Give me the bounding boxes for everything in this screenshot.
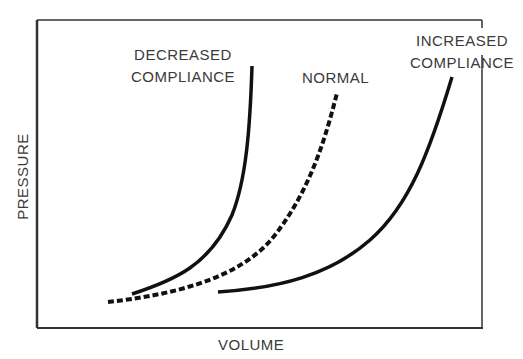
curve-increased-compliance bbox=[218, 77, 452, 292]
label-decreased-compliance: DECREASED COMPLIANCE bbox=[118, 44, 248, 88]
label-increased-compliance: INCREASED COMPLIANCE bbox=[400, 30, 523, 74]
label-decreased-line1: DECREASED bbox=[118, 44, 248, 66]
label-decreased-line2: COMPLIANCE bbox=[118, 66, 248, 88]
curve-decreased-compliance bbox=[132, 66, 252, 294]
label-normal: NORMAL bbox=[302, 67, 369, 89]
label-increased-line2: COMPLIANCE bbox=[400, 52, 523, 74]
label-increased-line1: INCREASED bbox=[400, 30, 523, 52]
curve-normal bbox=[108, 93, 337, 302]
y-axis-label: PRESSURE bbox=[14, 127, 31, 227]
x-axis-label: VOLUME bbox=[218, 334, 284, 356]
